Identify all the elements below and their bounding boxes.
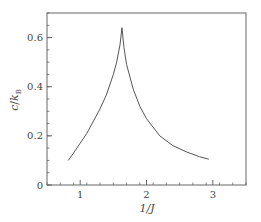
y-tick-label: 0 — [37, 180, 43, 191]
chart: 123 00.20.40.6 1/J c/kB — [0, 0, 261, 222]
x-tick-labels: 123 — [77, 189, 216, 200]
y-tick-labels: 00.20.40.6 — [27, 32, 43, 190]
x-tick-label: 1 — [77, 189, 83, 200]
y-tick-label: 0.4 — [27, 81, 43, 92]
x-tick-label: 3 — [210, 189, 216, 200]
plot-frame — [47, 13, 246, 185]
x-tick-label: 2 — [143, 189, 149, 200]
svg-text:c/kB: c/kB — [8, 89, 23, 111]
y-axis-label-sub: B — [15, 89, 23, 94]
y-axis-label: c/kB — [8, 89, 23, 111]
data-line — [68, 28, 209, 161]
y-tick-label: 0.6 — [27, 32, 43, 43]
axis-ticks — [47, 13, 246, 185]
y-tick-label: 0.2 — [27, 130, 43, 141]
x-axis-label: 1/J — [139, 202, 155, 215]
